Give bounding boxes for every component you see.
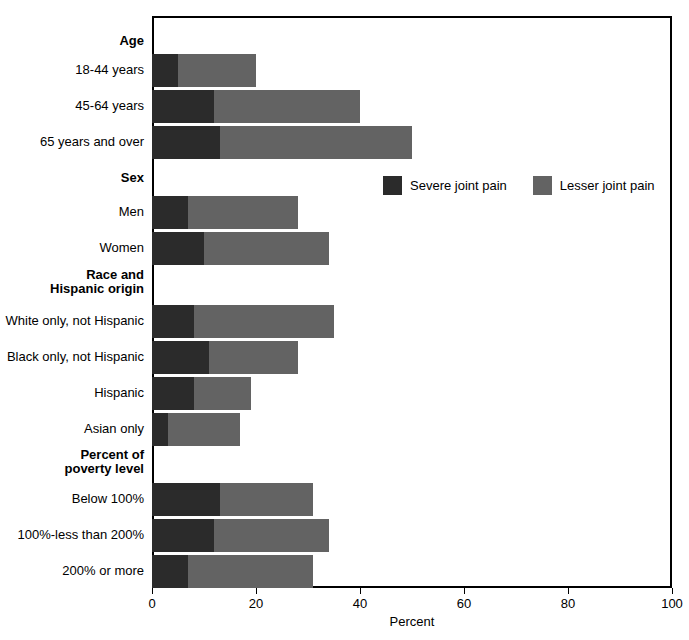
bar-segment-lesser-joint-pain [214,519,328,552]
bar-row [152,341,298,374]
bar-segment-severe-joint-pain [152,413,168,446]
x-axis-tick [672,588,673,594]
bar-segment-severe-joint-pain [152,483,220,516]
category-label: Black only, not Hispanic [7,350,144,364]
group-header-label: Race andHispanic origin [50,268,144,296]
chart-legend: Severe joint painLesser joint pain [383,176,655,195]
x-axis-tick-label: 0 [148,596,155,611]
legend-label: Severe joint pain [410,178,507,193]
category-label: Hispanic [94,386,144,400]
category-label: Men [119,205,144,219]
bar-segment-lesser-joint-pain [220,483,314,516]
bar-segment-lesser-joint-pain [214,90,360,123]
bar-row [152,232,329,265]
bar-segment-severe-joint-pain [152,196,188,229]
group-header-line-1: Percent of [65,448,145,462]
legend-item: Severe joint pain [383,176,507,195]
legend-swatch-lesser [533,176,552,195]
bar-row [152,555,313,588]
bar-segment-severe-joint-pain [152,341,209,374]
legend-item: Lesser joint pain [533,176,655,195]
bar-row [152,377,251,410]
bar-segment-severe-joint-pain [152,54,178,87]
bar-row [152,54,256,87]
category-label: Asian only [84,422,144,436]
bar-segment-severe-joint-pain [152,555,188,588]
x-axis-tick [256,588,257,594]
group-header-label: Percent ofpoverty level [65,448,145,476]
bar-row [152,483,313,516]
category-label: 100%-less than 200% [18,528,144,542]
bar-segment-lesser-joint-pain [204,232,329,265]
x-axis-tick-label: 20 [249,596,263,611]
category-label: 200% or more [62,564,144,578]
joint-pain-stacked-bar-chart: Age18-44 years45-64 years65 years and ov… [0,0,689,640]
group-header-label: Age [119,34,144,48]
bar-segment-severe-joint-pain [152,232,204,265]
bars-layer [152,16,672,588]
x-axis-tick [568,588,569,594]
bar-row [152,519,329,552]
bar-segment-lesser-joint-pain [188,196,297,229]
x-axis-tick-label: 60 [457,596,471,611]
bar-row [152,196,298,229]
bar-segment-lesser-joint-pain [194,305,334,338]
bar-segment-severe-joint-pain [152,519,214,552]
x-axis-title: Percent [152,614,672,629]
group-header-line-1: Race and [50,268,144,282]
legend-label: Lesser joint pain [560,178,655,193]
bar-segment-lesser-joint-pain [194,377,251,410]
group-header-line-2: poverty level [65,462,145,476]
legend-swatch-severe [383,176,402,195]
category-label: White only, not Hispanic [6,314,145,328]
category-label: 65 years and over [40,135,144,149]
category-label: 18-44 years [75,63,144,77]
bar-segment-severe-joint-pain [152,90,214,123]
category-label: 45-64 years [75,99,144,113]
x-axis: 020406080100 [152,588,672,589]
bar-segment-severe-joint-pain [152,377,194,410]
x-axis-tick [360,588,361,594]
bar-segment-severe-joint-pain [152,305,194,338]
bar-row [152,413,240,446]
bar-row [152,305,334,338]
bar-segment-lesser-joint-pain [209,341,297,374]
bar-segment-lesser-joint-pain [188,555,313,588]
bar-segment-severe-joint-pain [152,126,220,159]
x-axis-tick-label: 40 [353,596,367,611]
bar-row [152,90,360,123]
x-axis-tick [464,588,465,594]
x-axis-tick [152,588,153,594]
category-label: Below 100% [72,492,144,506]
x-axis-tick-label: 80 [561,596,575,611]
category-labels-column: Age18-44 years45-64 years65 years and ov… [0,16,148,588]
bar-segment-lesser-joint-pain [168,413,241,446]
bar-row [152,126,412,159]
x-axis-tick-label: 100 [661,596,683,611]
group-header-label: Sex [121,171,144,185]
bar-segment-lesser-joint-pain [178,54,256,87]
group-header-line-2: Hispanic origin [50,282,144,296]
bar-segment-lesser-joint-pain [220,126,412,159]
category-label: Women [99,241,144,255]
